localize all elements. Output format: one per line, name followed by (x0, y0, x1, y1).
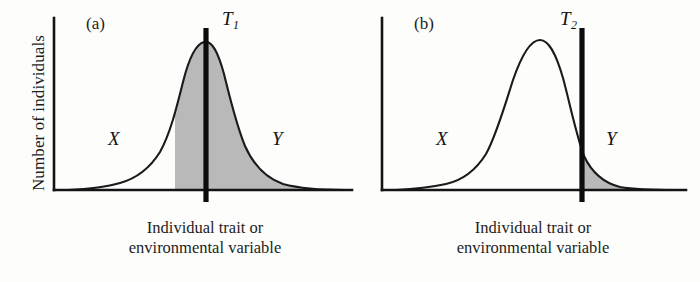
region-label-y-b: Y (606, 128, 617, 150)
region-label-x-a: X (108, 128, 120, 150)
x-axis-caption-a-line1: Individual trait or (40, 218, 370, 238)
x-axis-caption-a: Individual trait or environmental variab… (40, 218, 370, 258)
threshold-label-t2-base: T (560, 8, 571, 29)
region-label-y-a: Y (272, 128, 283, 150)
threshold-label-t1: T1 (222, 8, 239, 30)
shaded-area-y-b (396, 40, 676, 190)
distribution-curve-b (396, 40, 676, 190)
x-axis-caption-b-line2: environmental variable (368, 238, 698, 258)
panel-b: (b) T2 X Y Individual trait or environme… (368, 0, 698, 282)
panel-letter-b: (b) (414, 14, 434, 34)
panel-letter-a: (a) (86, 14, 105, 34)
threshold-label-t1-subscript: 1 (233, 18, 239, 32)
threshold-label-t2: T2 (560, 8, 577, 30)
region-label-x-b: X (436, 128, 448, 150)
threshold-label-t1-base: T (222, 8, 233, 29)
x-axis-caption-b-line1: Individual trait or (368, 218, 698, 238)
threshold-label-t2-subscript: 2 (571, 18, 577, 32)
x-axis-caption-a-line2: environmental variable (40, 238, 370, 258)
panel-a: (a) T1 X Y Individual trait or environme… (40, 0, 370, 282)
x-axis-caption-b: Individual trait or environmental variab… (368, 218, 698, 258)
figure-container: Number of individuals (a) T1 X Y (0, 0, 700, 282)
